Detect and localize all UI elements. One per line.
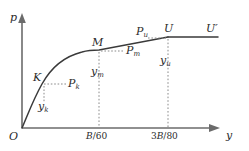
tick-3b-rest: /80: [163, 131, 177, 141]
yk-sub: k: [44, 106, 48, 114]
tick-label-b-over-60: B/60: [86, 132, 107, 141]
yu-sub: u: [166, 60, 171, 68]
value-label-yk: yk: [38, 101, 48, 112]
point-label-k: K: [33, 72, 41, 83]
point-label-u-prime: U′: [206, 23, 218, 34]
p-y-curve-figure: p y O K M U U′ Pk Pm Pu yk ym yu B/60 3B…: [0, 0, 249, 151]
point-label-u-prime-base: U: [206, 22, 215, 35]
value-label-pm: Pm: [126, 45, 140, 56]
value-label-ym: ym: [91, 66, 104, 77]
tick-b-rest: /60: [93, 131, 107, 141]
pk-sub: k: [75, 83, 79, 91]
pm-sub: m: [133, 50, 140, 58]
p-axis-label: p: [10, 12, 17, 23]
pu-sub: u: [143, 31, 148, 39]
y-axis-label: y: [226, 130, 232, 141]
y-axis: [22, 124, 220, 132]
point-label-m: M: [92, 37, 103, 48]
prime-mark: ′: [215, 22, 218, 35]
p-y-curve: [22, 37, 218, 128]
value-label-yu: yu: [160, 55, 171, 66]
tick-label-3b-over-80: 3B/80: [151, 132, 178, 141]
value-label-pu: Pu: [136, 26, 148, 37]
p-axis: [18, 13, 26, 128]
tick-b-italic: B: [86, 131, 93, 141]
value-label-pk: Pk: [68, 78, 80, 89]
origin-label: O: [9, 131, 18, 142]
ym-sub: m: [97, 71, 104, 79]
point-label-u: U: [164, 23, 173, 34]
